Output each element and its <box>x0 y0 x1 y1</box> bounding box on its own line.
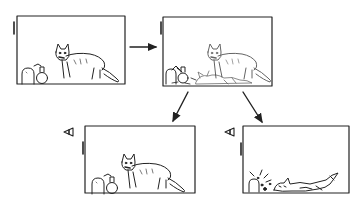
arrow-down-left-icon <box>173 92 188 121</box>
cat-alive-icon <box>122 154 185 192</box>
box-frame <box>17 16 125 84</box>
cat-dead-faint-icon <box>196 71 252 84</box>
panel-observed-dead <box>225 126 349 193</box>
box-frame <box>85 126 195 193</box>
apparatus-superposed <box>166 66 196 84</box>
panel-initial <box>14 16 125 84</box>
schrodinger-cat-diagram <box>0 0 362 208</box>
poison-flask-apparatus <box>92 174 118 194</box>
panel-superposition <box>161 17 272 86</box>
cat-alive-icon <box>56 44 119 82</box>
flask-shattered-icon <box>249 170 271 192</box>
arrow-down-right-icon <box>243 92 262 122</box>
cat-dead-icon <box>274 173 338 191</box>
box-frame <box>163 17 272 86</box>
poison-flask-apparatus <box>22 64 48 84</box>
cat-alive-faint-icon <box>208 44 271 82</box>
panel-observed-alive <box>64 126 195 194</box>
